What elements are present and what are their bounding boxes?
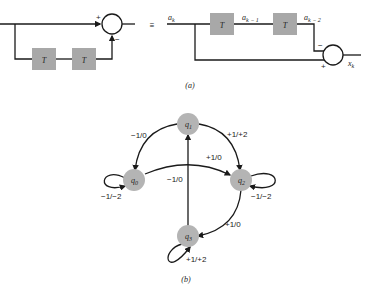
equivalence-symbol: ≡ [150,21,155,30]
minus-sign-right: − [318,41,323,50]
transition-label-q2-q3: +1/0 [225,220,241,229]
transition-label-q1-q2: +1/+2 [227,130,248,139]
delay-label-3: T [220,21,225,30]
diagram-canvas: T T + − ≡ T T ak ak − 1 ak − 2 − + xk (a… [0,0,386,289]
input-label-ak: ak [168,13,175,23]
signal-label-ak-2: ak − 2 [304,13,321,23]
state-q3: q3 [177,225,199,247]
signal-label-ak-1: ak − 1 [242,13,259,23]
output-label-xk: xk [347,59,355,69]
transition-label-q1-q0: −1/0 [131,131,147,140]
figure-a-right [167,24,361,65]
delay-label-2: T [82,56,87,65]
transition-label-q3-q1: −1/0 [167,175,183,184]
plus-sign-right: + [321,62,326,71]
plus-sign: + [96,13,101,22]
transition-label-q0-q2: +1/0 [206,153,222,162]
transition-label-q3-loop: +1/+2 [186,255,207,264]
state-q0: q0 [123,169,145,191]
minus-sign: − [115,35,120,44]
caption-b: (b) [181,275,191,284]
transition-label-q0-loop: −1/−2 [101,192,122,201]
state-q2: q2 [230,169,252,191]
state-q1: q1 [177,113,199,135]
transition-label-q2-loop: −1/−2 [251,192,272,201]
delay-label-1: T [42,56,47,65]
caption-a: (a) [185,81,195,90]
delay-label-4: T [283,21,288,30]
